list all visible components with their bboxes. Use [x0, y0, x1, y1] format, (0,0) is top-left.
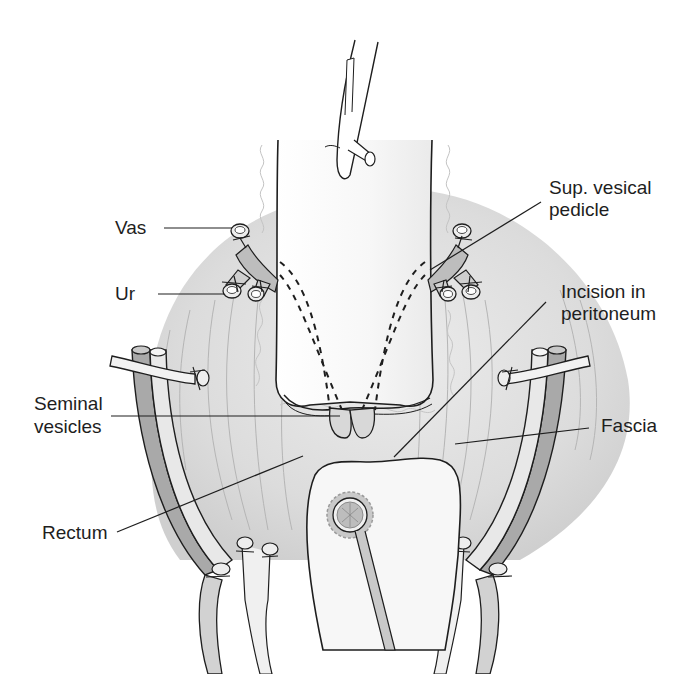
- label-seminal-line2: vesicles: [34, 416, 102, 438]
- label-sup-vesical-line1: Sup. vesical: [549, 177, 651, 199]
- rectum: [307, 458, 460, 650]
- label-seminal-line1: Seminal: [34, 393, 103, 415]
- bladder: [276, 140, 433, 416]
- label-vas: Vas: [115, 217, 146, 239]
- label-incision-line1: Incision in: [561, 281, 646, 303]
- label-sup-vesical-line2: pedicle: [549, 199, 609, 221]
- label-fascia: Fascia: [601, 415, 657, 437]
- label-rectum: Rectum: [42, 522, 107, 544]
- anatomical-diagram: [0, 0, 698, 674]
- label-incision-line2: peritoneum: [561, 303, 656, 325]
- label-ur: Ur: [115, 283, 135, 305]
